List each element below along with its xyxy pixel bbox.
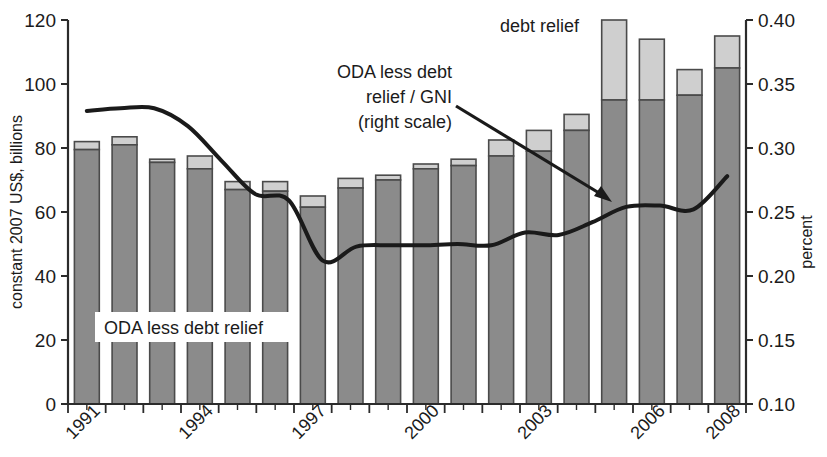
bar-group	[338, 178, 363, 404]
bar-segment-oda-less-debt-relief	[451, 166, 476, 404]
bar-segment-oda-less-debt-relief	[413, 169, 438, 404]
bar-group	[639, 39, 664, 404]
annotation-debt-relief: debt relief	[500, 16, 580, 36]
bar-segment-oda-less-debt-relief	[150, 162, 175, 404]
bar-segment-oda-less-debt-relief	[187, 169, 212, 404]
bar-segment-debt-relief	[489, 140, 514, 156]
bar-segment-oda-less-debt-relief	[677, 95, 702, 404]
bar-segment-debt-relief	[187, 156, 212, 169]
bar-segment-debt-relief	[639, 39, 664, 100]
bar-group	[715, 36, 740, 404]
bar-group	[526, 130, 551, 404]
y-tick-label-left: 0	[45, 394, 56, 415]
bar-segment-debt-relief	[564, 114, 589, 130]
bar-segment-oda-less-debt-relief	[489, 156, 514, 404]
bar-segment-oda-less-debt-relief	[263, 191, 288, 404]
bar-segment-oda-less-debt-relief	[639, 100, 664, 404]
bar-segment-debt-relief	[74, 142, 99, 150]
annotation-oda-gni-line: ODA less debt	[337, 62, 452, 82]
annotation-oda-gni-line: (right scale)	[358, 112, 452, 132]
annotation-oda-gni-line: relief / GNI	[366, 87, 452, 107]
y-tick-label-right: 0.25	[758, 202, 795, 223]
chart-figure: 0204060801001200.100.150.200.250.300.350…	[0, 0, 827, 457]
y-tick-label-right: 0.20	[758, 266, 795, 287]
bar-group	[489, 140, 514, 404]
bar-segment-debt-relief	[602, 20, 627, 100]
bar-group	[263, 182, 288, 404]
bar-segment-oda-less-debt-relief	[112, 145, 137, 404]
bar-segment-debt-relief	[451, 159, 476, 165]
bar-segment-oda-less-debt-relief	[715, 68, 740, 404]
y-tick-label-right: 0.30	[758, 138, 795, 159]
y-tick-label-left: 80	[35, 138, 56, 159]
bar-segment-debt-relief	[715, 36, 740, 68]
bar-group	[74, 142, 99, 404]
y-tick-label-right: 0.40	[758, 10, 795, 31]
y-tick-label-right: 0.15	[758, 330, 795, 351]
bar-group	[451, 159, 476, 404]
chart-svg: 0204060801001200.100.150.200.250.300.350…	[0, 0, 827, 457]
bar-segment-debt-relief	[677, 70, 702, 96]
bar-segment-oda-less-debt-relief	[338, 188, 363, 404]
y-tick-label-left: 40	[35, 266, 56, 287]
y-tick-label-right: 0.35	[758, 74, 795, 95]
y-axis-title-right: percent	[798, 215, 815, 269]
bar-segment-oda-less-debt-relief	[74, 150, 99, 404]
bar-group	[112, 137, 137, 404]
y-axis-title-left: constant 2007 US$, billions	[8, 115, 25, 309]
bar-segment-debt-relief	[300, 196, 325, 207]
annotation-oda-less-debt-relief: ODA less debt relief	[104, 318, 264, 338]
bar-segment-oda-less-debt-relief	[564, 130, 589, 404]
bar-segment-debt-relief	[112, 137, 137, 145]
bar-segment-oda-less-debt-relief	[602, 100, 627, 404]
y-tick-label-left: 120	[24, 10, 56, 31]
bar-segment-oda-less-debt-relief	[225, 190, 250, 404]
bar-group	[413, 164, 438, 404]
y-tick-label-left: 60	[35, 202, 56, 223]
y-tick-label-left: 100	[24, 74, 56, 95]
y-tick-label-right: 0.10	[758, 394, 795, 415]
bar-segment-debt-relief	[338, 178, 363, 188]
y-tick-label-left: 20	[35, 330, 56, 351]
bar-segment-oda-less-debt-relief	[526, 151, 551, 404]
bar-group	[564, 114, 589, 404]
bar-group	[376, 175, 401, 404]
bar-segment-oda-less-debt-relief	[300, 207, 325, 404]
bar-group	[677, 70, 702, 404]
bar-group	[187, 156, 212, 404]
bar-group	[150, 159, 175, 404]
bar-group	[225, 182, 250, 404]
bar-segment-debt-relief	[263, 182, 288, 192]
bar-segment-oda-less-debt-relief	[376, 180, 401, 404]
bar-segment-debt-relief	[526, 130, 551, 151]
